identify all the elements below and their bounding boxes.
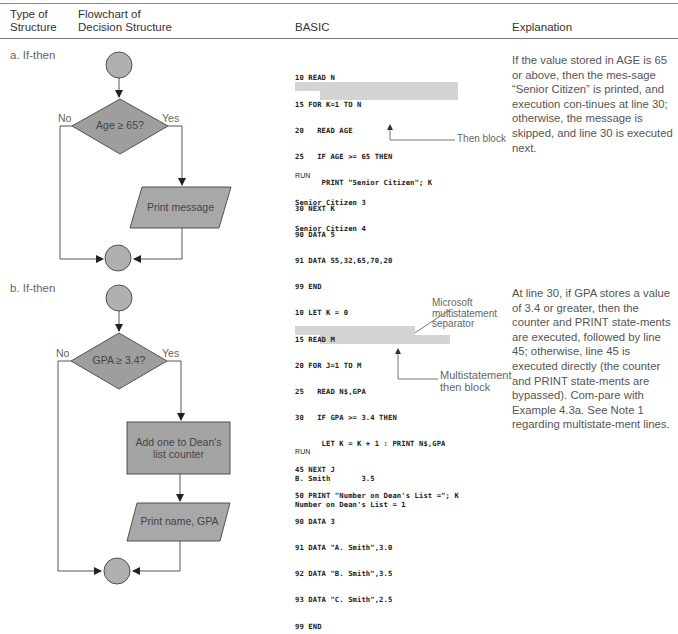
io-label: Print name, GPA [132, 515, 227, 527]
separator-annotation: Microsoft multistatement separator [432, 298, 497, 330]
code-line: 99 END [295, 283, 432, 292]
process-line: Add one to Dean's [127, 436, 230, 448]
code-line: 10 READ N [295, 74, 432, 83]
code-line: 25 READ N$,GPA [295, 388, 459, 397]
run-line: Number on Dean's List = 1 [295, 501, 406, 510]
end-terminal [104, 558, 130, 584]
io-label: Print message [133, 201, 228, 213]
code-line: 91 DATA 55,32,65,70,20 [295, 257, 432, 266]
decision-label: GPA ≥ 3.4? [79, 354, 159, 366]
explanation-b: At line 30, if GPA stores a value of 3.4… [512, 286, 677, 432]
run-line: Senior Citizen 3 [295, 199, 366, 208]
note-line: Multistatement [440, 369, 512, 381]
process-line: list counter [127, 448, 230, 460]
code-line: 91 DATA "A. Smith",3.0 [295, 544, 459, 553]
end-terminal [105, 245, 131, 271]
no-label: No [56, 347, 69, 359]
decision-label: Age ≥ 65? [80, 119, 160, 131]
code-line: 15 FOR K=1 TO N [295, 101, 432, 110]
explanation-a: If the value stored in AGE is 65 or abov… [512, 53, 677, 155]
code-line: 20 READ AGE [295, 127, 432, 136]
code-line: 93 DATA "C. Smith",2.5 [295, 596, 459, 605]
run-line: RUN [295, 172, 366, 181]
code-line: 92 DATA "B. Smith",3.5 [295, 570, 459, 579]
yes-label: Yes [162, 347, 179, 359]
start-terminal [106, 285, 132, 311]
process-label: Add one to Dean's list counter [127, 436, 230, 460]
then-block-annotation: Then block [457, 134, 506, 145]
example-b-label: b. If-then [10, 282, 55, 294]
example-a-label: a. If-then [10, 49, 55, 61]
code-line: 90 DATA 3 [295, 518, 459, 527]
run-line: B. Smith 3.5 [295, 475, 406, 484]
note-line: then block [440, 381, 512, 393]
note-line: separator [432, 319, 497, 330]
yes-label: Yes [162, 112, 179, 124]
code-line: 99 END [295, 623, 459, 632]
flowchart-a [60, 52, 231, 271]
note-line: Microsoft [432, 298, 497, 309]
run-output-b: RUN B. Smith 3.5 Number on Dean's List =… [295, 431, 406, 518]
no-label: No [58, 112, 71, 124]
run-line: RUN [295, 448, 406, 457]
code-line: 20 FOR J=1 TO M [295, 362, 459, 371]
flowchart-b [58, 285, 230, 584]
multistatement-annotation: Multistatement then block [440, 369, 512, 393]
start-terminal [106, 52, 132, 78]
code-line: 30 IF GPA >= 3.4 THEN [295, 414, 459, 423]
run-output-a: RUN Senior Citizen 3 Senior Citizen 4 [295, 155, 366, 242]
code-line: 15 READ M [295, 336, 459, 345]
run-line: Senior Citizen 4 [295, 225, 366, 234]
